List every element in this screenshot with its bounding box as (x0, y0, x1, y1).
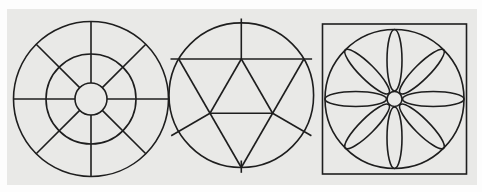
petal-east (403, 92, 465, 107)
petal-rosette (323, 24, 467, 174)
petal-southeast (395, 99, 449, 153)
figures-canvas (0, 0, 482, 192)
hub-circle (75, 83, 107, 115)
lower-left-extension (171, 113, 210, 135)
spoke-northwest (36, 44, 79, 87)
petal-south (387, 107, 402, 169)
spoke-northeast (102, 44, 145, 87)
lower-right-extension (273, 113, 312, 135)
petal-northeast (395, 45, 449, 99)
spoke-southwest (36, 110, 79, 153)
petal-north (387, 30, 402, 92)
triangle-construction (169, 19, 314, 173)
geometric-figures-image (0, 0, 482, 192)
petal-southwest (340, 99, 394, 153)
medial-left-side (210, 59, 241, 113)
spoked-wheel (14, 22, 169, 177)
petal-northwest (340, 45, 394, 99)
spoke-southeast (102, 110, 145, 153)
petal-west (325, 92, 387, 107)
medial-right-side (241, 59, 272, 113)
bounding-square (323, 24, 467, 174)
